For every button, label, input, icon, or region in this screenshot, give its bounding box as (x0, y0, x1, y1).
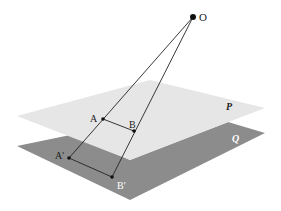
label-a-prime: A' (55, 150, 64, 161)
label-b-prime: B' (117, 180, 126, 191)
label-b: B (129, 119, 136, 130)
label-o: O (199, 11, 207, 23)
label-plane-q: Q (232, 133, 239, 144)
projection-diagram: O A B A' B' P Q (0, 0, 281, 211)
point-a-prime (67, 156, 71, 160)
point-b-prime (110, 175, 114, 179)
label-a: A (90, 113, 98, 124)
label-plane-p: P (226, 101, 233, 112)
point-a (101, 117, 105, 121)
point-o (190, 14, 196, 20)
